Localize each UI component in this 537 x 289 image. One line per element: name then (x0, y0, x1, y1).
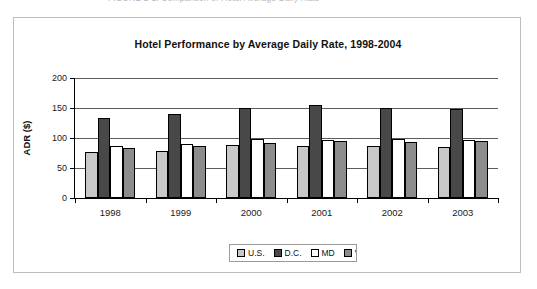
bar-md-2003[interactable] (463, 140, 476, 198)
bar-dc-2000[interactable] (239, 108, 252, 198)
legend-item-us[interactable]: U.S. (237, 248, 265, 258)
bar-us-2001[interactable] (297, 146, 310, 198)
bar-dc-2001[interactable] (309, 105, 322, 198)
bar-group (85, 78, 135, 198)
x-axis-tick-mark (357, 198, 358, 203)
y-axis-tick-mark (70, 78, 75, 79)
bar-group (156, 78, 206, 198)
bar-us-2003[interactable] (438, 147, 451, 198)
bar-group (297, 78, 347, 198)
bar-us-1998[interactable] (85, 152, 98, 198)
plot-area: 050100150200199819992000200120022003 (74, 78, 498, 199)
legend-item-va[interactable]: VA (344, 248, 357, 258)
chart-legend: U.S.D.C.MDVA (229, 244, 357, 262)
x-axis-tick-label: 1999 (170, 207, 191, 218)
y-axis-tick-label: 100 (52, 133, 67, 143)
legend-item-dc[interactable]: D.C. (274, 248, 302, 258)
x-axis-tick-label: 2001 (311, 207, 332, 218)
y-axis-tick-mark (70, 168, 75, 169)
legend-label: VA (355, 248, 357, 258)
bar-dc-1998[interactable] (98, 118, 111, 198)
y-axis-tick-mark (70, 108, 75, 109)
bar-dc-2003[interactable] (450, 109, 463, 198)
y-axis-tick-label: 150 (52, 103, 67, 113)
bar-dc-1999[interactable] (168, 114, 181, 198)
gridline (75, 168, 498, 169)
bar-group (438, 78, 488, 198)
legend-label: D.C. (285, 248, 302, 258)
bar-md-2001[interactable] (322, 140, 335, 198)
gridline (75, 108, 498, 109)
x-axis-tick-mark (216, 198, 217, 203)
legend-label: MD (322, 248, 335, 258)
bar-va-1998[interactable] (123, 148, 136, 198)
y-axis-tick-label: 0 (62, 193, 67, 203)
legend-swatch-icon (237, 249, 245, 257)
x-axis-tick-label: 1998 (100, 207, 121, 218)
bar-us-2000[interactable] (226, 145, 239, 198)
bar-va-2003[interactable] (475, 141, 488, 198)
bar-group (367, 78, 417, 198)
x-axis-tick-mark (146, 198, 147, 203)
legend-swatch-icon (274, 249, 282, 257)
bar-md-1998[interactable] (110, 146, 123, 198)
chart-figure-frame: Hotel Performance by Average Daily Rate,… (13, 17, 521, 273)
y-axis-tick-label: 200 (52, 73, 67, 83)
y-axis-tick-mark (70, 138, 75, 139)
figure-caption-text: FIGURE 2-1. Comparison of Hotel Average … (108, 0, 319, 3)
bar-us-2002[interactable] (367, 146, 380, 198)
plot-region: ADR ($) 05010015020019981999200020012002… (14, 18, 522, 274)
gridline (75, 78, 498, 79)
bar-dc-2002[interactable] (380, 108, 393, 198)
legend-item-md[interactable]: MD (311, 248, 335, 258)
x-axis-tick-mark (498, 198, 499, 203)
x-axis-tick-label: 2003 (452, 207, 473, 218)
bar-md-1999[interactable] (181, 144, 194, 198)
bar-va-2000[interactable] (264, 143, 277, 198)
x-axis-tick-mark (287, 198, 288, 203)
bar-va-2001[interactable] (334, 141, 347, 198)
gridline (75, 138, 498, 139)
legend-swatch-icon (344, 249, 352, 257)
figure-caption-strip: FIGURE 2-1. Comparison of Hotel Average … (0, 0, 537, 13)
bar-md-2002[interactable] (392, 139, 405, 198)
x-axis-tick-mark (75, 198, 76, 203)
x-axis-tick-mark (428, 198, 429, 203)
y-axis-title: ADR ($) (21, 121, 32, 156)
bar-va-2002[interactable] (405, 142, 418, 198)
bar-us-1999[interactable] (156, 151, 169, 198)
y-axis-tick-label: 50 (57, 163, 67, 173)
bar-va-1999[interactable] (193, 146, 206, 198)
bar-md-2000[interactable] (251, 139, 264, 198)
legend-label: U.S. (248, 248, 265, 258)
bar-group (226, 78, 276, 198)
x-axis-tick-label: 2000 (241, 207, 262, 218)
x-axis-tick-label: 2002 (382, 207, 403, 218)
legend-swatch-icon (311, 249, 319, 257)
